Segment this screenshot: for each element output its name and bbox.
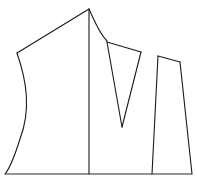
- figure-canvas: [0, 0, 197, 181]
- line-drawing-svg: [0, 0, 197, 181]
